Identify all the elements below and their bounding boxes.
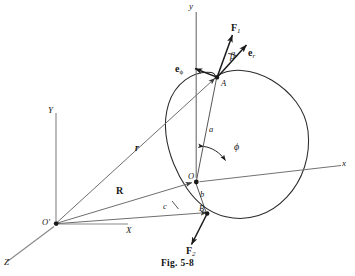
unit-vector-er-subscript: r (252, 52, 255, 60)
unit-vector-er-label: er (248, 48, 255, 60)
body-x-axis-label: x (342, 159, 346, 168)
inertial-X-axis-label: X (126, 226, 132, 235)
force-F1-label: F1 (231, 23, 241, 35)
force-F1-subscript: 1 (237, 27, 241, 35)
figure-caption: Fig. 5-8 (0, 258, 355, 268)
distance-a-label: a (209, 125, 213, 134)
point-B-label: B (199, 204, 204, 213)
inertial-Y-axis-label: Y (48, 106, 53, 115)
tick-mark-c (172, 201, 179, 209)
distance-b-label: b (200, 190, 204, 199)
vector-c (58, 213, 208, 224)
unit-vector-ephi-subscript: ϕ (179, 68, 183, 76)
distance-c-label: c (163, 202, 167, 211)
angle-phi-arc (204, 147, 226, 161)
body-x-axis (200, 166, 342, 182)
origin-O-marker (194, 180, 199, 185)
inertial-origin-label: O' (42, 218, 50, 227)
origin-Oprime-marker (54, 221, 59, 226)
force-F2-subscript: 2 (192, 250, 196, 258)
body-origin-label: O (188, 172, 194, 181)
vector-R (58, 183, 193, 223)
force-F2-arrow (192, 214, 208, 245)
segment-a (196, 79, 216, 182)
inertial-Z-axis (8, 227, 54, 262)
figure-5-8: y x O Y X Z O' A B a b c r R er eϕ F1 F2… (0, 0, 355, 276)
unit-vector-ephi-label: eϕ (175, 64, 183, 76)
vector-r-label: r (135, 143, 139, 153)
vector-R-label: R (116, 186, 123, 196)
figure-drawing (0, 0, 355, 276)
point-A-label: A (221, 79, 226, 88)
force-F2-label: F2 (186, 246, 196, 258)
body-y-axis-label: y (189, 2, 193, 11)
angle-beta-label: β (230, 51, 235, 61)
angle-phi-label: ϕ (234, 142, 239, 152)
